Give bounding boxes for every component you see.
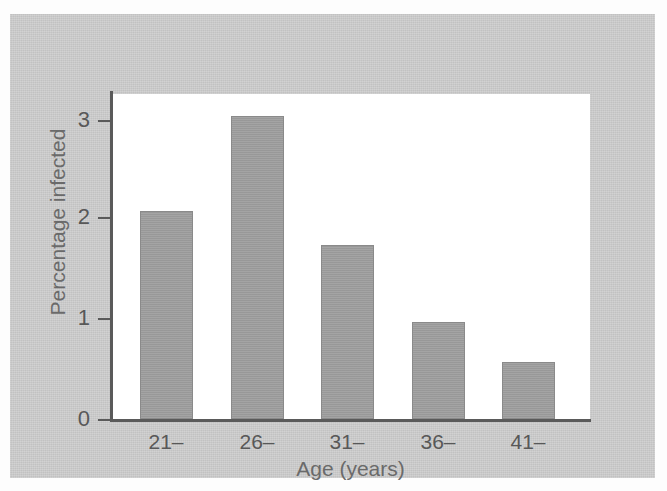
x-axis-title: Age (years) <box>110 457 591 481</box>
y-tick-label-0: 0 <box>64 408 90 430</box>
y-tick-0 <box>98 419 112 421</box>
y-tick-2 <box>98 217 112 219</box>
x-tick-label-36: 36– <box>393 429 483 454</box>
bar-36[interactable] <box>412 322 465 419</box>
x-tick-label-31: 31– <box>302 429 392 454</box>
y-tick-3 <box>98 120 112 122</box>
bar-21[interactable] <box>140 211 193 419</box>
x-tick-label-26: 26– <box>212 429 302 454</box>
bar-31[interactable] <box>321 245 374 419</box>
y-tick-1 <box>98 318 112 320</box>
figure-page: 0 1 2 3 21– 26– 31– 36– 41– Age (years) … <box>0 0 667 491</box>
x-axis-line <box>110 419 591 422</box>
y-axis-title: Percentage infected <box>46 112 70 332</box>
bar-26[interactable] <box>231 116 284 419</box>
y-axis-line <box>110 91 113 422</box>
bar-41[interactable] <box>502 362 555 419</box>
figure-panel: 0 1 2 3 21– 26– 31– 36– 41– Age (years) … <box>10 14 655 478</box>
x-tick-label-21: 21– <box>121 429 211 454</box>
x-tick-label-41: 41– <box>483 429 573 454</box>
